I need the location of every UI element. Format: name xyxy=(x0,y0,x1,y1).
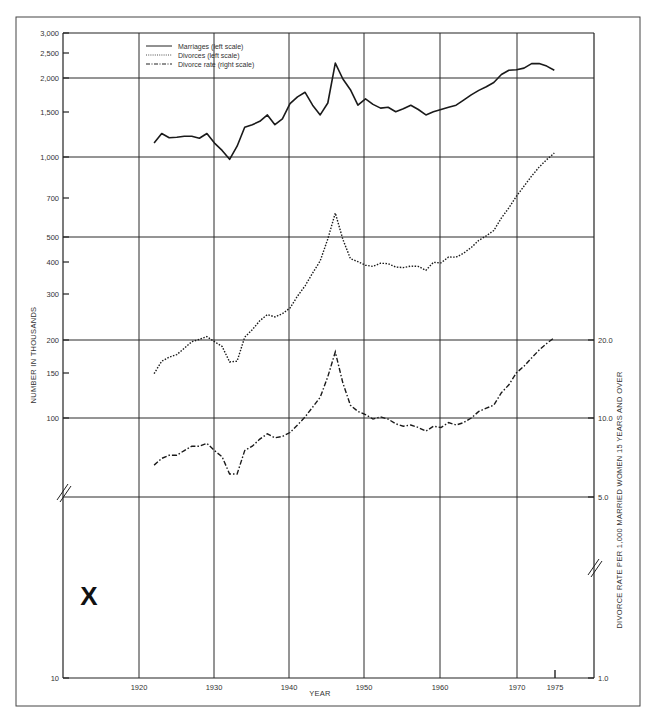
legend-marriages: Marriages (left scale) xyxy=(178,43,243,51)
left-tick-label: 400 xyxy=(46,258,59,267)
right-tick-label: 20.0 xyxy=(598,336,613,345)
x-axis-title: YEAR xyxy=(309,689,331,698)
right-axis-break-icon xyxy=(588,559,602,577)
right-axis-ticks: 20.010.05.01.0 xyxy=(588,336,613,683)
left-axis-ticks: 3,0002,5002,0001,5001,000700500400300200… xyxy=(40,29,69,683)
left-axis-title: NUMBER IN THOUSANDS xyxy=(29,307,38,404)
left-tick-label: 300 xyxy=(46,290,59,299)
right-axis-title: DIVORCE RATE PER 1,000 MARRIED WOMEN 15 … xyxy=(615,371,624,629)
left-tick-label: 1,000 xyxy=(40,153,59,162)
left-tick-label: 2,000 xyxy=(40,74,59,83)
left-tick-label: 700 xyxy=(46,194,59,203)
left-tick-label: 2,500 xyxy=(40,49,59,58)
left-tick-label: 1,500 xyxy=(40,108,59,117)
left-tick-label: 150 xyxy=(46,369,59,378)
x-tick-label: 1930 xyxy=(206,683,223,692)
x-tick-label: 1940 xyxy=(281,683,298,692)
x-axis-ticks: 1920193019401950196019701975 xyxy=(131,683,564,692)
right-tick-label: 1.0 xyxy=(598,674,608,683)
left-axis-break-icon xyxy=(57,484,71,502)
outer-frame xyxy=(16,17,640,706)
legend-divorces: Divorces (left scale) xyxy=(178,52,239,60)
legend: Marriages (left scale) Divorces (left sc… xyxy=(146,43,254,69)
plot-frame xyxy=(63,33,594,678)
left-tick-label: 200 xyxy=(46,336,59,345)
annotation-x-mark: X xyxy=(80,581,98,611)
x-tick-label: 1970 xyxy=(509,683,526,692)
left-tick-label: 10 xyxy=(51,674,59,683)
left-tick-label: 500 xyxy=(46,233,59,242)
left-tick-label: 3,000 xyxy=(40,29,59,38)
x-tick-label: 1975 xyxy=(547,683,564,692)
right-tick-label: 5.0 xyxy=(598,493,608,502)
gridlines xyxy=(63,33,594,678)
left-tick-label: 100 xyxy=(46,414,59,423)
legend-divorce-rate: Divorce rate (right scale) xyxy=(178,61,254,69)
right-tick-label: 10.0 xyxy=(598,414,613,423)
x-tick-label: 1950 xyxy=(356,683,373,692)
chart: 3,0002,5002,0001,5001,000700500400300200… xyxy=(0,0,652,719)
x-tick-label: 1920 xyxy=(131,683,148,692)
x-tick-label: 1960 xyxy=(432,683,449,692)
